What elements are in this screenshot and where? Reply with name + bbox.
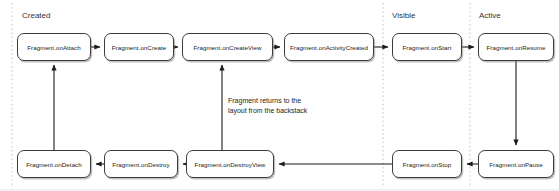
fragment-lifecycle-diagram: Created Visible Active Fragment.onAttach… [0,0,559,191]
node-fragment-onattach[interactable]: Fragment.onAttach [17,33,91,61]
node-fragment-oncreate[interactable]: Fragment.onCreate [104,33,174,61]
node-fragment-oncreateview[interactable]: Fragment.onCreateView [182,33,273,61]
annotation-line-1: Fragment returns to the [228,96,307,106]
phase-label-created: Created [22,11,50,20]
node-fragment-ondestroy[interactable]: Fragment.onDestroy [104,150,178,178]
node-fragment-ondestroyview[interactable]: Fragment.onDestroyView [186,150,274,178]
annotation-line-2: layout from the backstack [228,106,307,116]
annotation-backstack-return: Fragment returns to the layout from the … [228,96,307,115]
node-fragment-onstart[interactable]: Fragment.onStart [392,33,462,61]
node-fragment-onpause[interactable]: Fragment.onPause [478,150,554,178]
phase-label-active: Active [479,11,501,20]
phase-label-visible: Visible [392,11,415,20]
node-fragment-ondetach[interactable]: Fragment.onDetach [17,150,91,178]
node-fragment-onresume[interactable]: Fragment.onResume [478,33,554,61]
node-fragment-onstop[interactable]: Fragment.onStop [392,150,462,178]
node-fragment-onactivitycreated[interactable]: Fragment.onActivityCreated [284,33,374,61]
